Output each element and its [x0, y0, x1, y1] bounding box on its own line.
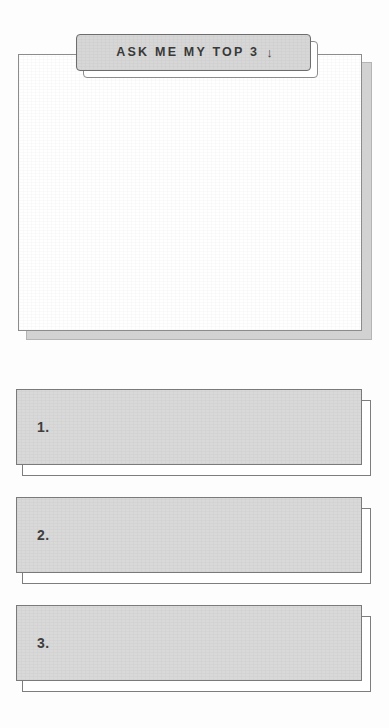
- prompt-header-label: ASK ME MY TOP 3: [114, 46, 259, 59]
- answer-row-number: 1.: [37, 420, 50, 434]
- note-card-surface[interactable]: [18, 54, 362, 331]
- arrow-down-icon: ↓: [266, 46, 273, 59]
- answer-row-input[interactable]: [50, 498, 361, 572]
- answer-row-input[interactable]: [50, 606, 361, 680]
- answer-row-number: 2.: [37, 528, 50, 542]
- answer-row[interactable]: 3.: [16, 605, 372, 697]
- prompt-header-surface[interactable]: ASK ME MY TOP 3 ↓: [76, 34, 311, 71]
- page-canvas: ASK ME MY TOP 3 ↓ 1. 2. 3.: [0, 0, 389, 728]
- answer-row-number: 3.: [37, 636, 50, 650]
- answer-row-surface[interactable]: 1.: [16, 389, 362, 465]
- answer-row-surface[interactable]: 3.: [16, 605, 362, 681]
- answer-row[interactable]: 2.: [16, 497, 372, 589]
- answer-row[interactable]: 1.: [16, 389, 372, 481]
- answer-row-surface[interactable]: 2.: [16, 497, 362, 573]
- answer-row-input[interactable]: [50, 390, 361, 464]
- note-card-writing-area[interactable]: [19, 55, 361, 330]
- question-note-card[interactable]: [18, 54, 374, 342]
- prompt-header[interactable]: ASK ME MY TOP 3 ↓: [76, 34, 320, 80]
